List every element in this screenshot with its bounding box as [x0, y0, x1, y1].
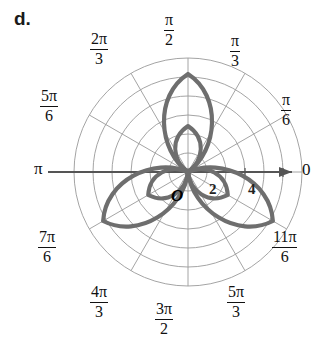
fraction-numerator: π [230, 33, 240, 52]
fraction-denominator: 6 [272, 248, 297, 266]
angle-label-five-pi-over-3: 5π 3 [227, 284, 245, 320]
fraction-denominator: 3 [90, 303, 108, 321]
fraction-numerator: 5π [227, 284, 245, 303]
fraction-seven-pi-over-6: 7π 6 [38, 229, 56, 265]
angle-label-0: 0 [302, 161, 311, 178]
fraction-numerator: 11π [272, 229, 297, 248]
fraction-numerator: 3π [155, 301, 173, 320]
angle-label-four-pi-over-3: 4π 3 [90, 284, 108, 320]
fraction-four-pi-over-3: 4π 3 [90, 284, 108, 320]
polar-plot-figure: d. [0, 0, 335, 361]
fraction-denominator: 3 [90, 50, 108, 68]
curve-pole-node [185, 169, 192, 176]
fraction-denominator: 2 [164, 31, 174, 49]
angle-label-five-pi-over-6: 5π 6 [40, 88, 58, 124]
angle-label-pi-over-6: π 6 [281, 92, 291, 128]
fraction-denominator: 6 [38, 248, 56, 266]
fraction-five-pi-over-3: 5π 3 [227, 284, 245, 320]
angle-label-pi: π [34, 160, 43, 177]
angle-label-eleven-pi-over-6: 11π 6 [272, 229, 297, 265]
fraction-denominator: 6 [40, 107, 58, 125]
angle-label-three-pi-over-2: 3π 2 [155, 301, 173, 337]
fraction-pi-over-3: π 3 [230, 33, 240, 69]
fraction-denominator: 6 [281, 111, 291, 129]
fraction-pi-over-6: π 6 [281, 92, 291, 128]
angle-label-seven-pi-over-6: 7π 6 [38, 229, 56, 265]
angle-label-0-text: 0 [302, 160, 311, 179]
fraction-numerator: π [281, 92, 291, 111]
angle-label-two-pi-over-3: 2π 3 [90, 31, 108, 67]
fraction-two-pi-over-3: 2π 3 [90, 31, 108, 67]
fraction-eleven-pi-over-6: 11π 6 [272, 229, 297, 265]
fraction-numerator: 2π [90, 31, 108, 50]
fraction-numerator: 7π [38, 229, 56, 248]
fraction-five-pi-over-6: 5π 6 [40, 88, 58, 124]
origin-label: O [171, 186, 183, 206]
fraction-denominator: 3 [230, 52, 240, 70]
fraction-three-pi-over-2: 3π 2 [155, 301, 173, 337]
fraction-denominator: 2 [155, 320, 173, 338]
fraction-denominator: 3 [227, 303, 245, 321]
fraction-pi-over-2: π 2 [164, 12, 174, 48]
polar-axis-arrowhead [279, 167, 292, 177]
fraction-numerator: π [164, 12, 174, 31]
fraction-numerator: 4π [90, 284, 108, 303]
angle-label-pi-over-3: π 3 [230, 33, 240, 69]
radial-tick-label-4: 4 [248, 181, 256, 198]
fraction-numerator: 5π [40, 88, 58, 107]
angle-label-pi-text: π [34, 159, 43, 178]
angle-label-pi-over-2: π 2 [164, 12, 174, 48]
radial-tick-label-2: 2 [209, 181, 217, 198]
